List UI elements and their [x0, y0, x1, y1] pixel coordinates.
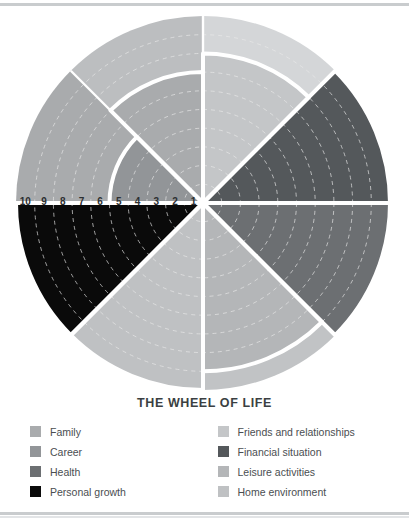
- legend-label: Health: [50, 466, 80, 478]
- radial-scale-label: 6: [97, 196, 103, 207]
- legend-item[interactable]: Health: [30, 462, 208, 481]
- legend-item[interactable]: Family: [30, 422, 208, 441]
- radial-scale-label: 5: [116, 196, 122, 207]
- legend-swatch-leisure-activities: [218, 466, 229, 477]
- wheel-chart-svg: 10987654321: [10, 10, 399, 396]
- figure-bottom-rule-secondary: [0, 516, 409, 518]
- radial-scale-label: 4: [135, 196, 141, 207]
- legend-item[interactable]: Home environment: [218, 482, 396, 501]
- wheel-separators-group: [16, 16, 390, 390]
- legend-item[interactable]: Financial situation: [218, 442, 396, 461]
- legend-swatch-home-environment: [218, 486, 229, 497]
- page-title: THE WHEEL OF LIFE: [0, 396, 409, 410]
- legend-swatch-career: [30, 446, 41, 457]
- legend-swatch-financial-situation: [218, 446, 229, 457]
- legend-label: Friends and relationships: [238, 426, 355, 438]
- radial-scale-label: 10: [20, 196, 32, 207]
- radial-scale-label: 1: [191, 196, 197, 207]
- legend-item[interactable]: Career: [30, 442, 208, 461]
- legend-swatch-family: [30, 426, 41, 437]
- legend-column-right: Friends and relationships Financial situ…: [208, 422, 396, 502]
- wheel-of-life-figure: 10987654321 THE WHEEL OF LIFE Family Car…: [0, 0, 409, 520]
- legend-label: Financial situation: [238, 446, 322, 458]
- legend-label: Family: [50, 426, 81, 438]
- radial-scale-label: 7: [79, 196, 85, 207]
- legend-label: Career: [50, 446, 82, 458]
- radial-scale-label: 9: [41, 196, 47, 207]
- legend-swatch-friends-and-relationships: [218, 426, 229, 437]
- legend-item[interactable]: Personal growth: [30, 482, 208, 501]
- radial-scale-label: 8: [60, 196, 66, 207]
- legend-label: Home environment: [238, 486, 327, 498]
- legend: Family Career Health Personal growth Fri…: [0, 422, 409, 502]
- wheel-chart-container: 10987654321: [10, 10, 399, 396]
- figure-bottom-rule: [0, 512, 409, 515]
- figure-top-rule: [0, 3, 409, 6]
- legend-swatch-personal-growth: [30, 486, 41, 497]
- radial-scale-label: 3: [153, 196, 159, 207]
- legend-label: Leisure activities: [238, 466, 316, 478]
- legend-item[interactable]: Friends and relationships: [218, 422, 396, 441]
- legend-column-left: Family Career Health Personal growth: [30, 422, 208, 502]
- legend-swatch-health: [30, 466, 41, 477]
- radial-scale-label: 2: [172, 196, 178, 207]
- legend-label: Personal growth: [50, 486, 126, 498]
- legend-item[interactable]: Leisure activities: [218, 462, 396, 481]
